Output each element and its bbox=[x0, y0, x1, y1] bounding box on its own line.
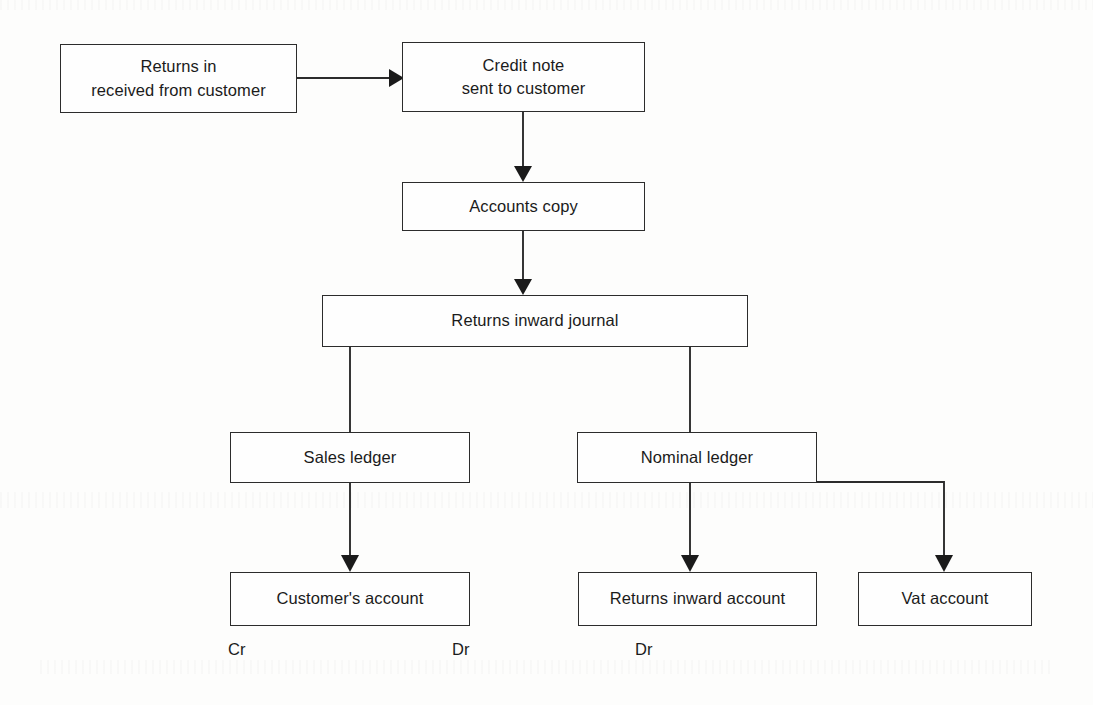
node-returns-in-line2: received from customer bbox=[91, 81, 266, 99]
node-returns-inward-account[interactable]: Returns inward account bbox=[578, 572, 817, 626]
node-accounts-copy[interactable]: Accounts copy bbox=[402, 182, 645, 231]
node-credit-note-line2: sent to customer bbox=[462, 79, 586, 97]
node-returns-inward-journal[interactable]: Returns inward journal bbox=[322, 295, 748, 347]
node-returns-in-line1: Returns in bbox=[140, 57, 216, 75]
node-returns-inward-account-label: Returns inward account bbox=[604, 587, 792, 610]
node-sales-ledger-label: Sales ledger bbox=[298, 446, 403, 469]
connector-returns-in-to-credit-note bbox=[297, 69, 404, 87]
connector-accounts-copy-to-journal bbox=[514, 231, 532, 295]
node-customers-account-label: Customer's account bbox=[270, 587, 429, 610]
node-nominal-ledger[interactable]: Nominal ledger bbox=[577, 432, 817, 483]
node-sales-ledger[interactable]: Sales ledger bbox=[230, 432, 470, 483]
diagram-canvas: Returns in received from customer Credit… bbox=[0, 0, 1093, 705]
node-credit-note-line1: Credit note bbox=[483, 56, 565, 74]
caption-dr-vat-account: Dr bbox=[635, 640, 653, 659]
node-returns-inward-journal-label: Returns inward journal bbox=[445, 309, 624, 332]
node-returns-in[interactable]: Returns in received from customer bbox=[60, 44, 297, 113]
connector-nominal-ledger-to-returns-inward-account bbox=[681, 483, 699, 572]
connector-nominal-ledger-to-vat-account bbox=[817, 482, 953, 572]
node-customers-account[interactable]: Customer's account bbox=[230, 572, 470, 626]
node-accounts-copy-label: Accounts copy bbox=[463, 195, 584, 218]
caption-dr-returns-inward-account: Dr bbox=[452, 640, 470, 659]
connector-credit-note-to-accounts-copy bbox=[514, 112, 532, 182]
caption-cr-customers-account: Cr bbox=[228, 640, 246, 659]
node-vat-account-label: Vat account bbox=[895, 587, 994, 610]
node-vat-account[interactable]: Vat account bbox=[858, 572, 1032, 626]
connector-sales-ledger-to-customers-account bbox=[341, 483, 359, 572]
node-credit-note[interactable]: Credit note sent to customer bbox=[402, 42, 645, 112]
node-nominal-ledger-label: Nominal ledger bbox=[635, 446, 759, 469]
